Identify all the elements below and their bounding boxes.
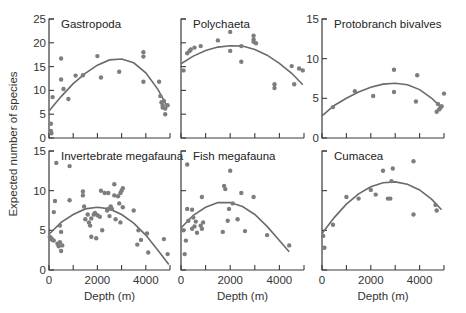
- data-point: [356, 196, 360, 200]
- data-point: [59, 56, 63, 60]
- y-tick-label: 20: [33, 37, 46, 49]
- data-point: [165, 252, 169, 256]
- x-tick-label: 2000: [217, 274, 243, 286]
- panel-title: Protobranch bivalves: [334, 18, 442, 30]
- data-point: [165, 103, 169, 107]
- shared-y-axis-label: Expected number of species: [7, 71, 19, 216]
- data-point: [389, 179, 393, 183]
- data-point: [228, 30, 232, 34]
- data-point: [59, 77, 63, 81]
- data-point: [181, 68, 185, 72]
- x-tick-label: 0: [46, 274, 52, 286]
- data-point: [113, 217, 117, 221]
- data-point: [158, 94, 162, 98]
- data-point: [95, 54, 99, 58]
- data-point: [118, 220, 122, 224]
- panel-invertebrate-megafauna: 051015020004000Depth (m)Invertebrate meg…: [33, 145, 184, 302]
- panel-cumacea: 020004000Depth (m)Cumacea: [319, 150, 444, 302]
- data-point: [89, 216, 93, 220]
- data-point: [121, 186, 125, 190]
- panel-protobranch-bivalves: 051015Protobranch bivalves: [306, 13, 446, 144]
- data-point: [243, 229, 247, 233]
- data-point: [381, 169, 385, 173]
- data-point: [49, 122, 53, 126]
- data-point: [59, 230, 63, 234]
- y-tick-label: 0: [313, 132, 319, 144]
- data-point: [49, 131, 53, 135]
- data-point: [200, 227, 204, 231]
- data-point: [292, 82, 296, 86]
- x-tick-label: 2000: [85, 274, 111, 286]
- fit-curve: [322, 83, 442, 116]
- data-point: [100, 228, 104, 232]
- data-point: [251, 34, 255, 38]
- data-point: [110, 207, 114, 211]
- x-axis-label: Depth (m): [84, 290, 135, 302]
- axes: [49, 19, 170, 138]
- data-point: [201, 220, 205, 224]
- data-point: [439, 104, 443, 108]
- panel-fish-megafauna: 020004000Depth (m)Fish megafauna: [178, 150, 304, 302]
- data-point: [112, 182, 116, 186]
- data-point: [223, 187, 227, 191]
- data-point: [184, 238, 188, 242]
- data-point: [53, 199, 57, 203]
- y-tick-label: 5: [40, 224, 46, 236]
- data-point: [228, 169, 232, 173]
- data-point: [99, 75, 103, 79]
- data-point: [392, 68, 396, 72]
- x-axis-label: Depth (m): [357, 290, 408, 302]
- y-tick-label: 15: [33, 145, 46, 157]
- data-point: [107, 214, 111, 218]
- data-point: [290, 64, 294, 68]
- x-tick-label: 4000: [267, 274, 293, 286]
- data-point: [60, 243, 64, 247]
- data-point: [52, 238, 56, 242]
- data-point: [59, 249, 63, 253]
- data-point: [141, 50, 145, 54]
- data-point: [136, 228, 140, 232]
- fit-curve: [49, 59, 168, 111]
- fit-curve: [181, 203, 289, 252]
- data-point: [235, 217, 239, 221]
- data-point: [200, 195, 204, 199]
- panels: 0510152025GastropodaPolychaeta051015Prot…: [33, 13, 446, 302]
- data-point: [141, 80, 145, 84]
- data-point: [117, 70, 121, 74]
- data-point: [391, 166, 395, 170]
- data-point: [185, 207, 189, 211]
- data-point: [195, 231, 199, 235]
- data-point: [81, 73, 85, 77]
- data-point: [121, 205, 125, 209]
- data-point: [67, 164, 71, 168]
- data-point: [414, 99, 418, 103]
- data-point: [88, 223, 92, 227]
- y-tick-label: 5: [40, 108, 46, 120]
- data-point: [415, 73, 419, 77]
- data-point: [272, 82, 276, 86]
- data-point: [388, 196, 392, 200]
- data-point: [163, 112, 167, 116]
- data-point: [199, 44, 203, 48]
- data-point: [54, 161, 58, 165]
- data-point: [331, 105, 335, 109]
- axes: [181, 19, 304, 138]
- data-point: [411, 212, 415, 216]
- data-point: [251, 195, 255, 199]
- data-point: [321, 234, 325, 238]
- data-point: [226, 219, 230, 223]
- y-tick-label: 5: [313, 92, 319, 104]
- data-point: [99, 189, 103, 193]
- data-point: [162, 99, 166, 103]
- data-point: [192, 45, 196, 49]
- data-point: [221, 230, 225, 234]
- panel-title: Gastropoda: [61, 18, 122, 30]
- data-point: [374, 192, 378, 196]
- data-point: [112, 193, 116, 197]
- data-point: [192, 224, 196, 228]
- data-point: [435, 208, 439, 212]
- panel-gastropoda: 0510152025Gastropoda: [33, 13, 170, 144]
- y-tick-label: 15: [306, 13, 319, 25]
- data-point: [239, 60, 243, 64]
- data-point: [58, 223, 62, 227]
